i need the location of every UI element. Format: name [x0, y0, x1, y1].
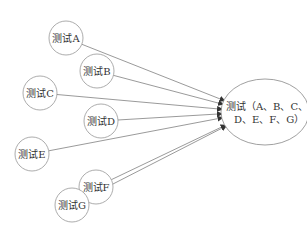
target-label-line1: 测试（A、B、C、 [226, 100, 307, 112]
source-node-g: 测试G [55, 188, 89, 222]
edge-d [118, 114, 222, 120]
source-node-c: 测试C [23, 76, 57, 110]
source-node-b: 测试B [80, 54, 114, 88]
node-label: 测试C [26, 87, 54, 99]
source-node-e: 测试E [15, 137, 49, 171]
node-label: 测试A [52, 32, 80, 44]
target-node: 测试（A、B、C、 D、E、F、G） [221, 79, 307, 145]
node-label: 测试B [83, 65, 110, 77]
edge-e [49, 118, 223, 151]
nodes: 测试A测试B测试C测试D测试E测试F测试G [15, 21, 118, 222]
edges [49, 44, 226, 197]
node-label: 测试E [18, 148, 45, 160]
diagram-canvas: 测试A测试B测试C测试D测试E测试F测试G 测试（A、B、C、 D、E、F、G） [0, 0, 307, 237]
node-label: 测试G [58, 199, 86, 211]
edge-c [57, 95, 222, 110]
node-label: 测试F [83, 181, 110, 193]
target-ellipse [221, 79, 307, 145]
edge-f [111, 125, 225, 180]
source-node-d: 测试D [84, 104, 118, 138]
diagram-svg: 测试A测试B测试C测试D测试E测试F测试G 测试（A、B、C、 D、E、F、G） [0, 0, 307, 237]
edge-b [113, 75, 223, 104]
target-label-line2: D、E、F、G） [234, 114, 304, 125]
node-label: 测试D [87, 115, 115, 127]
source-node-a: 测试A [49, 21, 83, 55]
